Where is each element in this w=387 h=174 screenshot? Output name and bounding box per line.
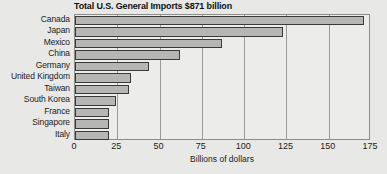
bar-row	[75, 49, 371, 60]
x-tick-75: 75	[196, 141, 206, 151]
bar-row	[75, 95, 371, 106]
y-label-south-korea: South Korea	[0, 94, 70, 105]
bar-italy	[75, 131, 109, 140]
x-tick-50: 50	[154, 141, 164, 151]
bar-singapore	[75, 119, 109, 128]
y-label-china: China	[0, 48, 70, 59]
y-label-mexico: Mexico	[0, 37, 70, 48]
bar-row	[75, 72, 371, 83]
plot-area	[74, 14, 370, 140]
bar-south-korea	[75, 96, 116, 105]
y-label-france: France	[0, 106, 70, 117]
x-tick-25: 25	[111, 141, 121, 151]
chart-title: Total U.S. General Imports $871 billion	[74, 1, 232, 11]
y-label-japan: Japan	[0, 25, 70, 36]
y-label-canada: Canada	[0, 14, 70, 25]
bar-row	[75, 61, 371, 72]
y-label-united-kingdom: United Kingdom	[0, 71, 70, 82]
y-axis-category-labels: CanadaJapanMexicoChinaGermanyUnited King…	[0, 14, 70, 140]
x-tick-175: 175	[362, 141, 377, 151]
x-tick-125: 125	[278, 141, 293, 151]
bar-row	[75, 15, 371, 26]
bar-japan	[75, 27, 283, 36]
y-label-singapore: Singapore	[0, 117, 70, 128]
bar-chart-figure: Total U.S. General Imports $871 billion …	[0, 0, 387, 174]
bar-row	[75, 107, 371, 118]
bar-row	[75, 26, 371, 37]
bar-canada	[75, 16, 364, 25]
bar-row	[75, 118, 371, 129]
y-label-taiwan: Taiwan	[0, 83, 70, 94]
x-tick-100: 100	[236, 141, 251, 151]
x-tick-150: 150	[320, 141, 335, 151]
x-axis-tick-labels: 0255075100125150175	[74, 141, 370, 153]
bar-row	[75, 130, 371, 141]
y-label-germany: Germany	[0, 60, 70, 71]
y-label-italy: Italy	[0, 129, 70, 140]
bar-france	[75, 108, 109, 117]
x-tick-0: 0	[71, 141, 76, 151]
bar-germany	[75, 62, 149, 71]
bar-taiwan	[75, 85, 129, 94]
bar-mexico	[75, 39, 222, 48]
bar-row	[75, 84, 371, 95]
x-axis-title: Billions of dollars	[74, 154, 370, 164]
bar-row	[75, 38, 371, 49]
bar-united-kingdom	[75, 73, 131, 82]
bar-china	[75, 50, 180, 59]
bars-container	[75, 15, 369, 139]
